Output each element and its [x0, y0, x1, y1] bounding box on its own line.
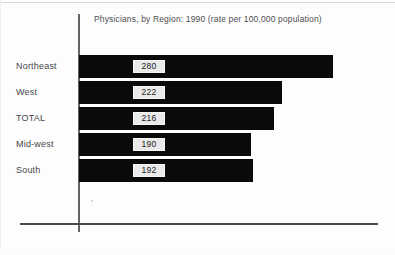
bar-row: Mid-west190 [0, 133, 395, 156]
bar-value-label: 280 [141, 62, 156, 71]
bar-row: Northeast280 [0, 55, 395, 78]
bar-category-label: South [16, 159, 41, 182]
chart-figure: Physicians, by Region: 1990 (rate per 10… [0, 0, 395, 255]
page-top-border [0, 2, 395, 3]
bar-row: South192 [0, 159, 395, 182]
bar-value-box: 192 [133, 164, 165, 177]
page-bottom-edge [0, 248, 395, 255]
bar-rectangle: 216 [79, 107, 274, 130]
x-axis-line [20, 223, 378, 225]
chart-title: Physicians, by Region: 1990 (rate per 10… [94, 14, 322, 24]
bar-value-box: 222 [133, 86, 165, 99]
bar-row: West222 [0, 81, 395, 104]
bar-category-label: TOTAL [16, 107, 45, 130]
bar-rectangle: 222 [79, 81, 282, 104]
bar-value-label: 222 [141, 88, 156, 97]
bar-rectangle: 192 [79, 159, 253, 182]
bar-row: TOTAL216 [0, 107, 395, 130]
bar-category-label: Northeast [16, 55, 57, 78]
bar-value-box: 280 [133, 60, 165, 73]
bar-category-label: West [16, 81, 37, 104]
bar-value-label: 192 [141, 166, 156, 175]
bar-value-label: 190 [141, 140, 156, 149]
bar-rectangle: 190 [79, 133, 251, 156]
bar-value-box: 190 [133, 138, 165, 151]
bar-category-label: Mid-west [16, 133, 54, 156]
bar-rectangle: 280 [79, 55, 333, 78]
scan-artifact-speck [91, 200, 93, 202]
bar-value-label: 216 [141, 114, 156, 123]
bar-value-box: 216 [133, 112, 165, 125]
